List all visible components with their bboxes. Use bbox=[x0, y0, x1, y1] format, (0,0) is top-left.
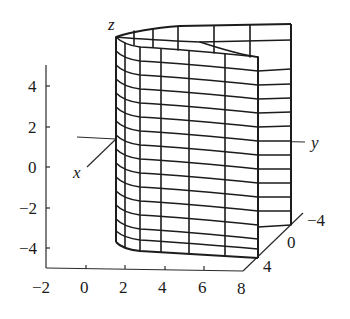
y-tick-label: 4 bbox=[263, 257, 272, 276]
z-axis-label: z bbox=[107, 15, 115, 34]
z-tick-label: −4 bbox=[19, 239, 38, 258]
x-tick-label: 2 bbox=[119, 278, 128, 297]
x-tick-labels: −2 0 2 4 6 8 bbox=[32, 278, 246, 298]
center-x-diagonal bbox=[87, 139, 116, 167]
z-tick-label: 2 bbox=[28, 118, 37, 137]
x-tick-label: 8 bbox=[237, 279, 246, 298]
y-tick-label: 0 bbox=[287, 233, 296, 252]
parabolic-cylinder-plot: z x y 4 2 0 −2 −4 −2 0 2 4 6 8 −4 0 4 bbox=[0, 0, 350, 319]
x-axis-label: x bbox=[72, 163, 81, 182]
x-tick-label: 4 bbox=[158, 278, 167, 297]
y-axis-label: y bbox=[309, 133, 319, 152]
z-tick-label: 0 bbox=[28, 158, 37, 177]
surface-mesh bbox=[116, 24, 291, 258]
z-tick-label: −2 bbox=[19, 199, 37, 218]
x-axis-line bbox=[46, 268, 243, 271]
center-x-line bbox=[77, 137, 116, 139]
z-tick-labels: 4 2 0 −2 −4 bbox=[19, 77, 38, 258]
x-tick-label: −2 bbox=[32, 278, 50, 297]
z-tick-label: 4 bbox=[28, 77, 37, 96]
y-tick-label: −4 bbox=[307, 211, 326, 230]
x-tick-label: 6 bbox=[198, 278, 207, 297]
x-tick-label: 0 bbox=[80, 278, 89, 297]
